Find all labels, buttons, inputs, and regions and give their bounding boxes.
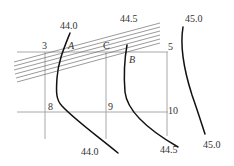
grid xyxy=(17,52,168,139)
grid-point-label-5: 5 xyxy=(168,42,173,52)
point-label-b: B xyxy=(129,55,135,65)
contour-44-0 xyxy=(57,33,118,153)
contour-label-44-0-top: 44.0 xyxy=(60,21,78,31)
hatch-line xyxy=(17,43,160,82)
hatch-line xyxy=(15,35,160,74)
contour-label-45-0-top: 45.0 xyxy=(185,14,203,24)
point-label-a: A xyxy=(68,41,74,51)
contour-label-44-0-bottom: 44.0 xyxy=(81,147,99,157)
grid-point-label-c: C xyxy=(103,41,110,51)
grid-point-label-9: 9 xyxy=(108,102,113,112)
hatch-line xyxy=(14,31,160,70)
grid-point-label-8: 8 xyxy=(48,102,53,112)
hatch-line xyxy=(14,27,160,66)
hatch-line xyxy=(16,39,160,78)
hatch-line xyxy=(14,23,160,62)
contour-label-44-5-top: 44.5 xyxy=(120,14,138,24)
contour-45-0 xyxy=(182,27,205,134)
contour-diagram xyxy=(0,0,234,166)
grid-point-label-10: 10 xyxy=(168,106,178,116)
grid-point-label-3: 3 xyxy=(42,41,47,51)
contour-label-45-0-bottom: 45.0 xyxy=(203,140,221,150)
contour-label-44-5-bottom: 44.5 xyxy=(160,145,178,155)
